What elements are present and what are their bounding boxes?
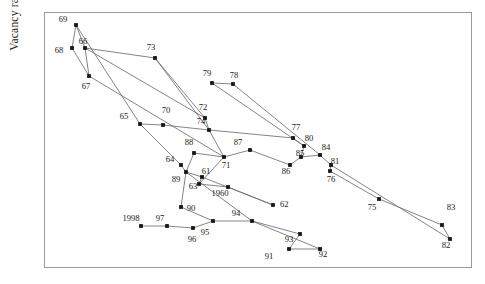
data-point-label: 88 [185,137,194,147]
data-point-label: 92 [319,249,328,259]
data-point-label: 84 [322,142,331,152]
data-point-marker [165,224,169,228]
data-point-marker [298,232,302,236]
data-point-label: 76 [327,174,336,184]
data-point-label: 81 [331,156,340,166]
data-point-marker [377,197,381,201]
data-point-label: 89 [172,174,181,184]
data-point-label: 64 [166,154,175,164]
trajectory-segment [209,130,293,138]
data-point-marker [139,224,143,228]
data-point-label: 1960 [211,188,228,198]
data-point-label: 86 [282,166,291,176]
data-point-label: 90 [187,203,196,213]
data-point-label: 97 [156,213,165,223]
data-point-marker [210,81,214,85]
trajectory-segment [330,171,450,239]
data-point-labels: 1960616364896566676869707172737475767778… [55,14,456,261]
data-point-label: 1998 [122,213,139,223]
data-point-marker [287,247,291,251]
data-point-label: 65 [120,111,129,121]
data-point-label: 82 [442,240,451,250]
data-point-label: 72 [199,102,208,112]
data-point-label: 96 [188,234,197,244]
data-point-label: 74 [197,116,206,126]
data-point-marker [222,155,226,159]
data-point-label: 95 [201,227,210,237]
data-point-label: 79 [203,68,212,78]
trajectory-segment [76,25,186,172]
plot-frame [45,13,472,268]
data-point-label: 73 [147,42,156,52]
data-point-label: 75 [368,202,377,212]
data-point-label: 71 [222,160,231,170]
data-point-marker [70,46,74,50]
data-point-label: 68 [55,45,64,55]
data-point-label: 63 [189,181,198,191]
data-point-label: 67 [82,81,91,91]
data-point-marker [87,74,91,78]
trajectory-segment [213,221,320,249]
data-point-label: 70 [162,105,171,115]
data-point-marker [197,182,201,186]
data-point-label: 78 [230,70,239,80]
data-point-marker [179,205,183,209]
data-point-marker [328,169,332,173]
data-point-marker [440,223,444,227]
scatter-plot: 1960616364896566676869707172737475767778… [0,0,485,284]
data-point-marker [291,136,295,140]
data-point-marker [207,128,211,132]
data-point-marker [192,151,196,155]
data-point-label: 61 [202,166,211,176]
data-point-label: 94 [232,208,241,218]
data-point-marker [191,226,195,230]
data-point-label: 91 [265,251,274,261]
trajectory-segment [141,207,213,228]
data-point-label: 62 [280,199,289,209]
data-point-label: 83 [447,202,456,212]
trajectory-segment [85,48,155,58]
data-point-marker [179,163,183,167]
data-point-marker [318,153,322,157]
data-point-label: 93 [285,234,294,244]
data-point-label: 87 [234,137,243,147]
data-point-label: 69 [59,14,68,24]
data-point-marker [184,170,188,174]
data-point-marker [211,219,215,223]
trajectory-segment [224,150,290,165]
data-point-marker [271,203,275,207]
data-point-marker [83,46,87,50]
data-point-label: 77 [292,122,301,132]
data-point-marker [248,148,252,152]
data-point-marker [138,122,142,126]
data-point-marker [153,56,157,60]
data-point-label: 66 [79,36,88,46]
trajectory-segment [212,83,304,146]
chart-container: Vacancy rate 196061636489656667686970717… [0,0,485,284]
trajectory-segment [233,84,320,155]
data-point-label: 85 [296,148,305,158]
trajectory-segment [85,48,205,118]
trajectory-segment [331,165,450,239]
data-point-marker [74,23,78,27]
data-point-marker [250,219,254,223]
trajectory-segment [181,172,186,207]
data-point-marker [161,123,165,127]
data-point-label: 80 [305,133,314,143]
data-point-marker [231,82,235,86]
trajectory-segment [212,83,233,84]
